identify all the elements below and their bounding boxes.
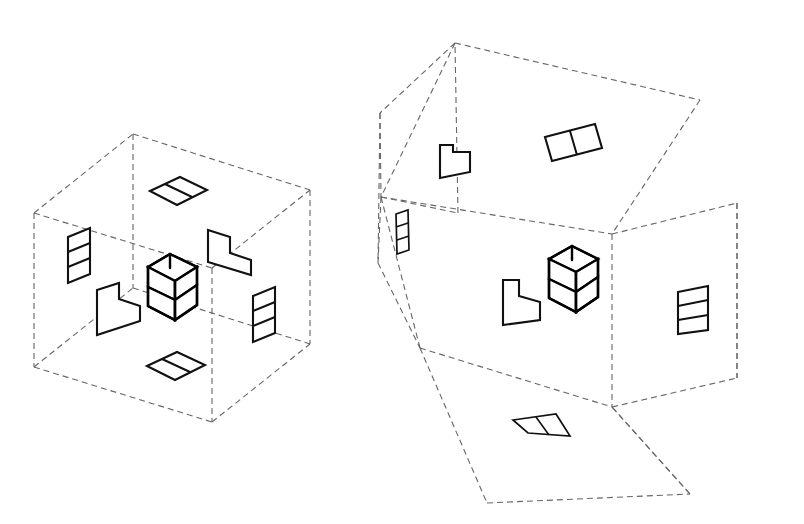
right-view-outline [253, 287, 275, 342]
unfold-core-top-front-r [612, 203, 737, 234]
box-edge-bottom-front-right [212, 344, 310, 422]
unfolded-box-object-l-tromino [549, 246, 598, 312]
unfolded-right-view-projection [678, 286, 708, 334]
closed-back-view-projection [208, 230, 251, 275]
diagram-canvas [0, 0, 804, 524]
unfold-core-bottom-left [420, 348, 612, 407]
unfolded-box-core-wireframe [381, 43, 737, 407]
closed-front-view-projection [97, 283, 140, 335]
left-view-outline [68, 228, 90, 283]
box-edge-top-back-left [34, 134, 133, 213]
unfold-bottom-panel-edge-a [420, 348, 487, 503]
u-left-view-outline [396, 210, 409, 254]
unfold-bottom-panel-hinge [612, 407, 690, 494]
unfold-bottom-panel-edge-b [487, 494, 690, 503]
unfold-core-top-front-l [381, 197, 612, 234]
unfold-top-panel-edge-a [455, 43, 700, 100]
front-view-outline [97, 283, 140, 335]
unfolded-bottom-view-projection [513, 414, 570, 436]
unfold-back-panel-edge-a [380, 43, 455, 113]
unfold-core-edge-topback [455, 43, 458, 213]
closed-left-view-projection [68, 228, 90, 283]
back-view-outline [208, 230, 251, 275]
box-edge-top-back-right [133, 134, 310, 190]
projection-box-figure [0, 0, 804, 524]
closed-box-group [34, 134, 310, 422]
closed-bottom-view-projection [147, 352, 205, 380]
closed-right-view-projection [253, 287, 275, 342]
unfold-left-panel-edge-b [378, 263, 420, 348]
box-edge-top-front-left [34, 213, 212, 268]
unfolded-back-view-projection [440, 145, 470, 178]
closed-top-view-projection [150, 177, 207, 205]
closed-box-object-l-tromino [148, 254, 197, 320]
unfold-core-bottom-right [612, 378, 737, 407]
u-front-view-outline [503, 280, 540, 325]
unfold-top-panel-edge-b [612, 100, 700, 234]
unfolded-left-view-projection [396, 210, 409, 254]
u-back-view-outline [440, 145, 470, 178]
unfolded-front-view-projection [503, 280, 540, 325]
u-right-view-outline [678, 286, 708, 334]
unfolded-box-group [378, 43, 737, 503]
unfold-bottom-panel-edge-c [612, 407, 690, 494]
unfolded-top-view-projection [545, 124, 602, 161]
